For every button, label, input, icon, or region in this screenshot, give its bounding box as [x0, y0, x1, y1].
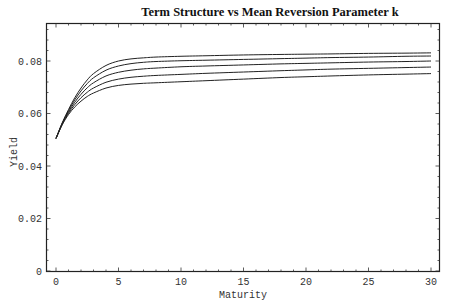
chart-title: Term Structure vs Mean Reversion Paramet…	[141, 5, 398, 19]
x-axis-label: Maturity	[219, 290, 267, 301]
y-tick-label: 0	[36, 267, 42, 278]
yield-curve-5	[56, 74, 431, 139]
yield-curve-1	[56, 53, 431, 139]
x-tick-label: 20	[300, 277, 312, 288]
x-tick-label: 30	[425, 277, 437, 288]
chart: Term Structure vs Mean Reversion Paramet…	[0, 0, 450, 308]
y-tick-label: 0.08	[18, 57, 42, 68]
x-tick-labels: 051015202530	[53, 277, 437, 288]
yield-curves	[56, 53, 431, 139]
y-axis-label: Yield	[9, 137, 20, 167]
yield-curve-4	[56, 67, 431, 138]
yield-curve-3	[56, 61, 431, 138]
y-tick-labels: 00.020.040.060.08	[18, 57, 42, 278]
y-tick-label: 0.02	[18, 214, 42, 225]
y-tick-label: 0.06	[18, 109, 42, 120]
x-tick-label: 5	[115, 277, 121, 288]
x-tick-label: 25	[362, 277, 374, 288]
x-tick-label: 10	[175, 277, 187, 288]
plot-frame	[47, 24, 440, 272]
axis-ticks	[47, 24, 440, 272]
y-tick-label: 0.04	[18, 162, 42, 173]
x-tick-label: 15	[237, 277, 249, 288]
x-tick-label: 0	[53, 277, 59, 288]
